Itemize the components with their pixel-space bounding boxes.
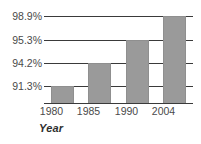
bar-1985	[88, 63, 111, 104]
bar-1980	[51, 86, 74, 104]
x-axis-line	[44, 103, 193, 104]
x-axis-tick-label-2004: 2004	[145, 105, 182, 117]
bar-1990	[126, 40, 149, 104]
y-axis-tick-label-91-3: 91.3%	[0, 81, 42, 92]
y-axis-tick-label-95-3: 95.3%	[0, 35, 42, 46]
x-axis-title: Year	[39, 122, 63, 134]
bar-chart-figure: 98.9% 95.3% 94.2% 91.3% 1980 1985 1990 2…	[0, 0, 201, 144]
y-axis-tick-label-94-2: 94.2%	[0, 58, 42, 69]
x-axis-tick-label-1990: 1990	[108, 105, 145, 117]
plot-area	[44, 10, 193, 104]
bar-2004	[163, 16, 186, 104]
x-axis-tick-label-1985: 1985	[70, 105, 107, 117]
x-axis-tick-label-1980: 1980	[33, 105, 70, 117]
y-axis-tick-label-98-9: 98.9%	[0, 11, 42, 22]
